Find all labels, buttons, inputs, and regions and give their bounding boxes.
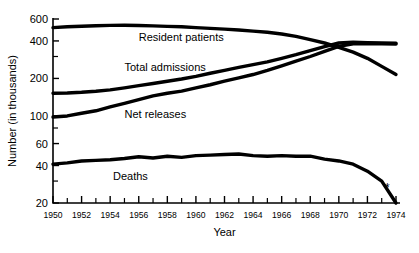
y-axis-tick-label: 100	[30, 110, 48, 122]
x-axis-tick-label: 1970	[329, 210, 348, 220]
series-label-total-admissions: Total admissions	[124, 61, 206, 73]
series-line-net-releases	[53, 43, 396, 117]
y-axis-tick-label: 40	[36, 160, 48, 172]
y-axis-title: Number (in thousands)	[6, 55, 18, 167]
x-axis-tick-label: 1972	[358, 210, 377, 220]
y-axis-tick-label: 60	[36, 138, 48, 150]
x-axis-tick-label: 1966	[272, 210, 291, 220]
x-axis-tick-label: 1974	[386, 210, 405, 220]
series-label-resident-patients: Resident patients	[139, 31, 224, 43]
series-label-net-releases: Net releases	[124, 108, 186, 120]
x-axis-tick-label: 1954	[101, 210, 120, 220]
footnote-asterisk: *	[385, 181, 390, 195]
y-axis-tick-label: 200	[30, 72, 48, 84]
x-axis-tick-label: 1968	[301, 210, 320, 220]
x-axis-tick-label: 1956	[129, 210, 148, 220]
x-axis-tick-label: 1950	[43, 210, 62, 220]
series-line-resident-patients	[53, 25, 396, 74]
y-axis-tick-label: 400	[30, 35, 48, 47]
series-label-deaths: Deaths	[113, 170, 148, 182]
x-axis-tick-label: 1962	[215, 210, 234, 220]
y-axis-tick-label: 20	[36, 197, 48, 209]
x-axis-title: Year	[213, 226, 236, 238]
x-axis-tick-label: 1960	[186, 210, 205, 220]
x-axis-tick-label: 1964	[244, 210, 263, 220]
y-axis-tick-label: 600	[30, 13, 48, 25]
line-chart: 6004002001006040201950195219541956195819…	[0, 0, 419, 253]
series-line-deaths	[53, 154, 396, 203]
chart-container: 6004002001006040201950195219541956195819…	[0, 0, 419, 253]
x-axis-tick-label: 1958	[158, 210, 177, 220]
x-axis-tick-label: 1952	[72, 210, 91, 220]
